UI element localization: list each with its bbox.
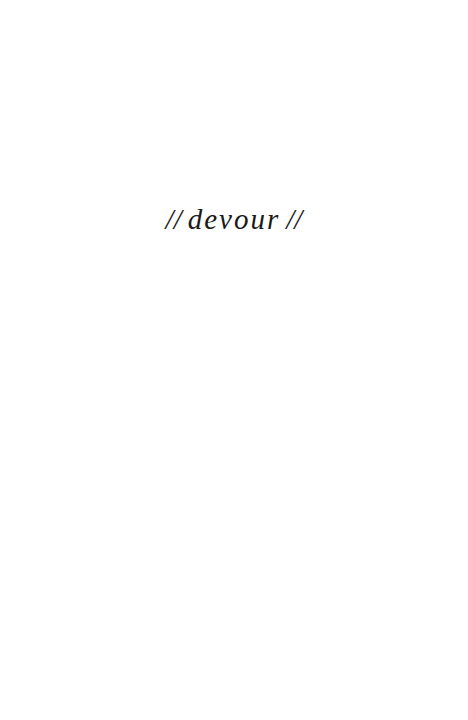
section-title-suffix: //: [286, 203, 302, 235]
book-page: //devour//: [0, 0, 468, 720]
section-title-word: devour: [188, 203, 281, 235]
section-title: //devour//: [0, 205, 468, 234]
section-title-prefix: //: [166, 203, 182, 235]
